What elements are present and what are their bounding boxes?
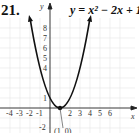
svg-text:6: 6 (108, 109, 112, 118)
svg-text:5: 5 (98, 109, 102, 118)
svg-text:6: 6 (43, 44, 47, 53)
svg-text:5: 5 (43, 54, 47, 63)
right-arrowhead-icon (87, 15, 92, 22)
svg-text:7: 7 (43, 34, 47, 43)
svg-text:-4: -4 (6, 109, 13, 118)
svg-text:-2: -2 (26, 109, 33, 118)
svg-text:4: 4 (43, 64, 47, 73)
graph-figure: 21. y = x² − 2x + 1 x y -4 -3 -2 (0, 0, 139, 133)
svg-text:-1: -1 (36, 109, 43, 118)
y-axis-label: y (39, 2, 44, 11)
left-arrowhead-icon (28, 15, 33, 22)
vertex-label: (1, 0) (54, 127, 72, 133)
svg-text:3: 3 (78, 109, 82, 118)
svg-text:1: 1 (43, 94, 47, 103)
svg-text:2: 2 (68, 109, 72, 118)
svg-text:-3: -3 (16, 109, 23, 118)
x-tick-labels: -4 -3 -2 -1 2 3 4 5 6 (6, 109, 112, 118)
svg-text:8: 8 (43, 24, 47, 33)
plot-area: x y -4 -3 -2 -1 2 3 4 5 6 8 7 6 5 4 1 -2… (0, 0, 139, 133)
svg-text:-2: -2 (39, 123, 46, 132)
svg-text:4: 4 (88, 109, 92, 118)
x-axis-label: x (130, 112, 135, 121)
